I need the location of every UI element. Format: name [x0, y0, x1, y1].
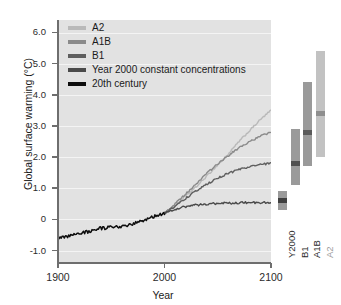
y-tick-label: 6.0: [14, 26, 46, 37]
x-tick-mark: [270, 263, 272, 268]
y-tick-label: -1.0: [14, 245, 46, 256]
legend-item: 20th century: [68, 77, 246, 91]
y-tick-mark: [52, 219, 57, 221]
range-bar: [291, 129, 300, 185]
legend-swatch-icon: [68, 82, 86, 87]
series-line: [165, 163, 272, 213]
x-axis-title: Year: [128, 289, 198, 301]
x-tick-label: 1900: [38, 271, 78, 283]
legend-item-label: A1B: [92, 37, 111, 47]
y-tick-mark: [52, 156, 57, 158]
legend-item-label: Year 2000 constant concentrations: [92, 65, 246, 75]
y-tick-mark: [52, 32, 57, 34]
y-tick-mark: [52, 125, 57, 127]
y-tick-mark: [52, 187, 57, 189]
legend-item: A2: [68, 21, 246, 35]
range-bar-label: Y2000: [286, 231, 297, 258]
legend-item-label: B1: [92, 51, 104, 61]
legend: A2A1BB1Year 2000 constant concentrations…: [68, 21, 246, 91]
y-axis-line: [57, 20, 59, 263]
legend-item-label: A2: [92, 23, 104, 33]
best-estimate-marker: [291, 161, 300, 166]
y-tick-mark: [52, 250, 57, 252]
legend-item: A1B: [68, 35, 246, 49]
best-estimate-marker: [303, 130, 312, 135]
series-line: [165, 202, 272, 214]
climate-projection-chart: -1.001.02.03.04.05.06.0 190020002100 Glo…: [0, 0, 341, 305]
y-tick-mark: [52, 94, 57, 96]
legend-item: Year 2000 constant concentrations: [68, 63, 246, 77]
best-estimate-marker: [278, 198, 287, 203]
legend-item-label: 20th century: [92, 79, 147, 89]
y-tick-label: 0: [14, 213, 46, 224]
x-tick-mark: [57, 263, 59, 268]
legend-swatch-icon: [68, 40, 86, 45]
x-tick-label: 2100: [251, 271, 291, 283]
legend-swatch-icon: [68, 26, 86, 31]
range-bar: [316, 51, 325, 157]
y-axis-title: Global surface warming (°C): [22, 44, 34, 204]
legend-swatch-icon: [68, 68, 86, 73]
series-line: [58, 213, 165, 240]
legend-item: B1: [68, 49, 246, 63]
best-estimate-marker: [316, 111, 325, 116]
legend-swatch-icon: [68, 54, 86, 59]
range-bar-label: A1B: [311, 240, 322, 258]
x-tick-label: 2000: [145, 271, 185, 283]
range-bar: [303, 82, 312, 166]
range-bar-label: A2: [324, 246, 335, 258]
y-tick-mark: [52, 63, 57, 65]
x-tick-mark: [164, 263, 166, 268]
range-bar-label: B1: [299, 246, 310, 258]
